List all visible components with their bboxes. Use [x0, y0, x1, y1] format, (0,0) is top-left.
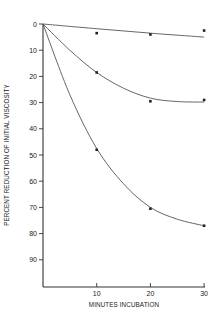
y-tick-label: 70 [29, 204, 37, 211]
data-point [149, 33, 152, 36]
y-tick-label: 20 [29, 73, 37, 80]
data-point [149, 100, 152, 103]
y-tick-label: 0 [33, 21, 37, 28]
y-tick-label: 60 [29, 178, 37, 185]
y-tick-label: 80 [29, 230, 37, 237]
y-tick-label: 50 [29, 152, 37, 159]
data-point [95, 32, 98, 35]
curve-3 [43, 24, 204, 226]
fitted-curves [43, 24, 204, 226]
y-tick-label: 30 [29, 99, 37, 106]
data-point [95, 71, 98, 74]
y-tick-label: 90 [29, 256, 37, 263]
data-point [149, 207, 152, 210]
x-tick-label: 30 [200, 290, 208, 297]
axes: 0102030405060708090102030 [29, 21, 208, 298]
y-tick-label: 10 [29, 47, 37, 54]
x-axis-title: MINUTES INCUBATION [89, 301, 160, 308]
curve-1 [43, 24, 204, 37]
data-point [95, 148, 98, 151]
x-tick-label: 10 [93, 290, 101, 297]
data-point [203, 224, 206, 227]
data-point [203, 99, 206, 102]
line-chart: 0102030405060708090102030 MINUTES INCUBA… [0, 0, 220, 328]
x-tick-label: 20 [147, 290, 155, 297]
data-point [203, 29, 206, 32]
y-axis-title: PERCENT REDUCTION OF INITIAL VISCOSITY [3, 83, 10, 225]
y-tick-label: 40 [29, 125, 37, 132]
data-points [95, 29, 205, 227]
